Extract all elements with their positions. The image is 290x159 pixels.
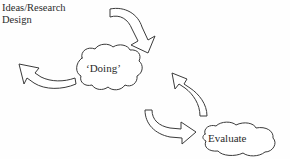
node-doing-label: ‘Doing’ — [86, 62, 121, 75]
arrow-evaluate-to-doing — [172, 73, 207, 116]
caption-ideas-research-design: Ideas/Research Design — [2, 2, 66, 27]
arrow-doing-to-evaluate — [145, 110, 196, 144]
node-evaluate-label: Evaluate — [208, 132, 246, 145]
arrow-doing-to-out — [19, 64, 76, 88]
diagram-canvas: Ideas/Research Design ‘Doing’ Evaluate — [0, 0, 290, 159]
